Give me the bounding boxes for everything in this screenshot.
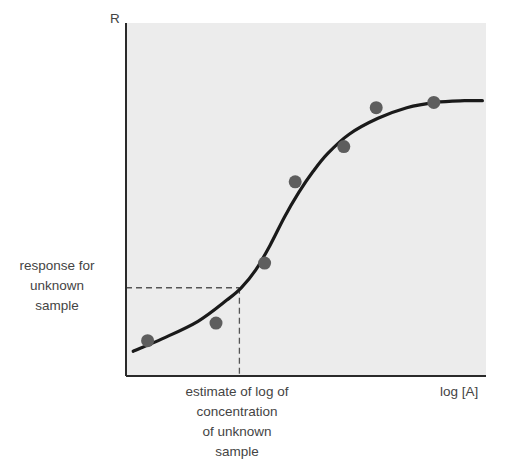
estimate-annotation-line: sample xyxy=(152,442,322,462)
response-annotation: response for unknown sample xyxy=(0,256,114,316)
estimate-annotation: estimate of log of concentration of unkn… xyxy=(152,382,322,462)
data-point xyxy=(337,140,350,153)
estimate-annotation-line: concentration xyxy=(152,402,322,422)
estimate-annotation-line: of unknown xyxy=(152,422,322,442)
data-point xyxy=(289,175,302,188)
y-axis-label: R xyxy=(110,9,120,29)
data-point xyxy=(141,334,154,347)
data-point xyxy=(258,257,271,270)
response-annotation-line: sample xyxy=(0,296,114,316)
data-point xyxy=(427,96,440,109)
data-point xyxy=(370,101,383,114)
data-point xyxy=(210,317,223,330)
x-axis-label: log [A] xyxy=(440,382,478,402)
estimate-annotation-line: estimate of log of xyxy=(152,382,322,402)
plot-background xyxy=(126,23,486,376)
response-annotation-line: response for xyxy=(0,256,114,276)
response-annotation-line: unknown xyxy=(0,276,114,296)
